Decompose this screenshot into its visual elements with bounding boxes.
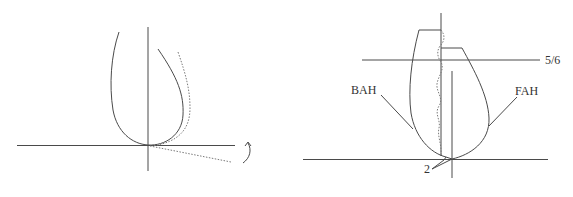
contact-leader-lines	[432, 157, 452, 169]
left-solid-profile	[111, 32, 183, 145]
left-dotted-profile	[152, 52, 190, 146]
left-dotted-baseline	[150, 146, 231, 162]
left-figure	[17, 27, 251, 171]
diagram-canvas: 5/6 BAH FAH 2	[0, 0, 573, 197]
right-figure	[303, 13, 548, 178]
label-fah: FAH	[515, 84, 538, 98]
front-flank-profile	[441, 48, 489, 159]
label-contact-2: 2	[424, 162, 430, 176]
bah-leader-line	[381, 95, 413, 129]
dotted-wavy-contour	[437, 30, 444, 156]
diagram-svg: 5/6 BAH FAH 2	[0, 0, 573, 197]
label-bah: BAH	[351, 83, 377, 97]
label-5-6: 5/6	[545, 53, 560, 67]
fah-leader-line	[489, 97, 517, 126]
rotation-arrow-icon	[243, 143, 250, 163]
